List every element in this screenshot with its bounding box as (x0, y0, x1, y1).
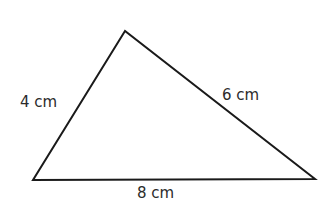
triangle-diagram: 4 cm 6 cm 8 cm (0, 0, 325, 208)
left-side-length-label: 4 cm (20, 93, 57, 111)
right-side-length-label: 6 cm (222, 86, 259, 104)
bottom-side-length-label: 8 cm (137, 184, 174, 202)
triangle-shape (33, 31, 315, 180)
